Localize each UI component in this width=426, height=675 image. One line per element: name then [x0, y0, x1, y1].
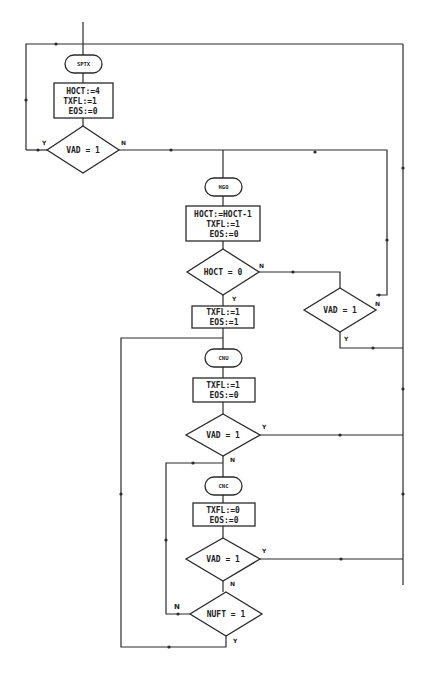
svg-text:N: N — [375, 300, 380, 307]
process-box-p5: TXFL:=0 EOS:=0 — [193, 503, 255, 526]
svg-text:Y: Y — [232, 637, 238, 644]
svg-text:EOS:=0: EOS:=0 — [210, 516, 239, 525]
terminal-sptx: SPTX — [65, 55, 102, 73]
svg-text:HGO: HGO — [219, 184, 230, 190]
svg-text:Y: Y — [41, 139, 47, 146]
terminal-cnu: CNU — [205, 349, 242, 367]
svg-text:EOS:=0: EOS:=0 — [210, 391, 239, 400]
svg-text:CNC: CNC — [219, 483, 229, 489]
process-box-p2: HOCT:=HOCT-1 TXFL:=1 EOS:=0 — [186, 206, 260, 241]
decision-d4: VAD = 1 Y N — [186, 414, 267, 463]
svg-text:VAD = 1: VAD = 1 — [206, 555, 240, 564]
flowchart: SPTX HGO CNU CNC HOCT:=4 TXFL:=1 EOS:=0 … — [0, 0, 426, 675]
svg-text:Y: Y — [261, 423, 267, 430]
svg-text:TXFL:=1: TXFL:=1 — [63, 97, 97, 106]
decision-d3: VAD = 1 N Y — [304, 288, 380, 342]
decision-d1: VAD = 1 Y N — [41, 126, 126, 173]
svg-text:N: N — [174, 603, 180, 611]
svg-text:HOCT:=4: HOCT:=4 — [66, 87, 100, 96]
process-box-p4: TXFL:=1 EOS:=0 — [193, 378, 255, 402]
svg-text:NUFT = 1: NUFT = 1 — [207, 610, 246, 619]
process-box-p1: HOCT:=4 TXFL:=1 EOS:=0 — [54, 83, 113, 118]
process-box-p3: TXFL:=1 EOS:=1 — [192, 306, 254, 328]
svg-text:TXFL:=0: TXFL:=0 — [206, 506, 240, 515]
svg-text:TXFL:=1: TXFL:=1 — [206, 381, 240, 390]
svg-text:VAD = 1: VAD = 1 — [323, 306, 357, 315]
svg-text:EOS:=0: EOS:=0 — [210, 230, 239, 239]
svg-text:Y: Y — [231, 295, 237, 302]
svg-text:N: N — [230, 580, 235, 587]
svg-text:N: N — [230, 456, 235, 463]
svg-text:CNU: CNU — [219, 355, 230, 361]
svg-text:VAD = 1: VAD = 1 — [206, 431, 240, 440]
d2-no-line — [259, 272, 340, 288]
decision-d5: VAD = 1 Y N — [186, 538, 267, 587]
svg-text:VAD = 1: VAD = 1 — [66, 146, 100, 155]
svg-text:Y: Y — [343, 335, 349, 342]
svg-text:Y: Y — [261, 547, 267, 554]
terminal-cnc: CNC — [205, 477, 242, 495]
terminal-hgo: HGO — [205, 178, 242, 196]
svg-text:TXFL:=1: TXFL:=1 — [206, 308, 240, 317]
flowchart-canvas: SPTX HGO CNU CNC HOCT:=4 TXFL:=1 EOS:=0 … — [0, 0, 426, 675]
svg-text:HOCT:=HOCT-1: HOCT:=HOCT-1 — [194, 210, 252, 219]
d3-yes-line — [340, 332, 403, 348]
svg-text:N: N — [259, 262, 264, 269]
svg-text:EOS:=1: EOS:=1 — [210, 318, 239, 327]
svg-text:TXFL:=1: TXFL:=1 — [206, 220, 240, 229]
svg-text:SPTX: SPTX — [77, 61, 91, 67]
svg-text:HOCT = 0: HOCT = 0 — [204, 268, 243, 277]
svg-text:EOS:=0: EOS:=0 — [69, 107, 98, 116]
decision-d2: HOCT = 0 N Y — [187, 249, 264, 302]
decision-d6: NUFT = 1 N Y — [174, 592, 262, 644]
svg-text:N: N — [121, 139, 126, 146]
